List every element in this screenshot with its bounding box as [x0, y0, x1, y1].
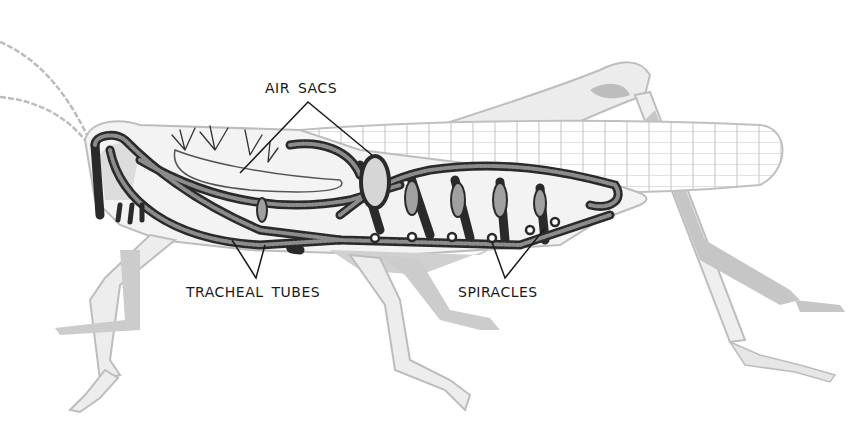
label-air-sacs: AIR SACS	[265, 80, 337, 96]
front-legs	[55, 235, 175, 412]
label-spiracles: SPIRACLES	[458, 284, 538, 300]
grasshopper-diagram: AIR SACS TRACHEAL TUBES SPIRACLES	[0, 0, 857, 431]
label-tracheal-tubes: TRACHEAL TUBES	[186, 284, 320, 300]
middle-legs	[350, 255, 500, 410]
grasshopper-illustration	[0, 0, 857, 431]
antennae	[0, 42, 87, 140]
